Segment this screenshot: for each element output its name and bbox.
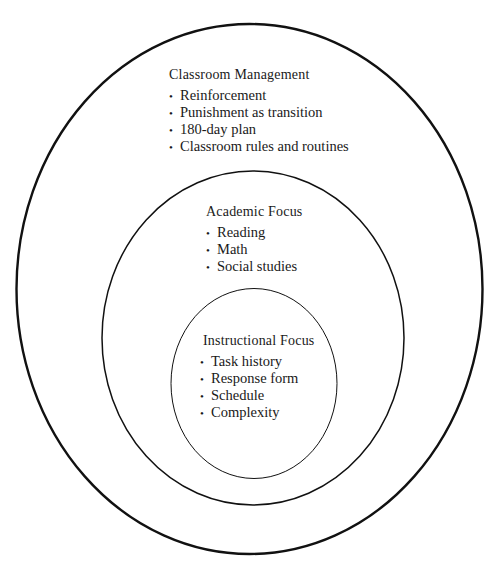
list-item: •Math [206,241,303,258]
academic-focus-block: Academic Focus •Reading •Math •Social st… [206,204,303,275]
ring-title: Classroom Management [169,67,349,83]
item-list: •Task history •Response form •Schedule •… [200,353,315,421]
bullet-icon: • [200,405,211,421]
list-item: •Punishment as transition [169,104,349,121]
list-item: •Task history [200,353,315,370]
list-item: •Reinforcement [169,87,349,104]
bullet-icon: • [169,105,180,121]
list-item: •Response form [200,370,315,387]
ring-title: Academic Focus [206,204,303,220]
bullet-icon: • [169,88,180,104]
list-item: •Classroom rules and routines [169,138,349,155]
bullet-icon: • [169,139,180,155]
instructional-focus-block: Instructional Focus •Task history •Respo… [203,333,315,421]
list-item: •Complexity [200,404,315,421]
bullet-icon: • [200,354,211,370]
item-list: •Reading •Math •Social studies [206,224,303,275]
bullet-icon: • [206,259,217,275]
list-item: •Schedule [200,387,315,404]
bullet-icon: • [169,122,180,138]
bullet-icon: • [206,242,217,258]
bullet-icon: • [206,225,217,241]
bullet-icon: • [200,388,211,404]
list-item: •Social studies [206,258,303,275]
item-list: •Reinforcement •Punishment as transition… [169,87,349,155]
ring-title: Instructional Focus [203,333,315,349]
bullet-icon: • [200,371,211,387]
list-item: •180-day plan [169,121,349,138]
list-item: •Reading [206,224,303,241]
classroom-management-block: Classroom Management •Reinforcement •Pun… [169,67,349,155]
